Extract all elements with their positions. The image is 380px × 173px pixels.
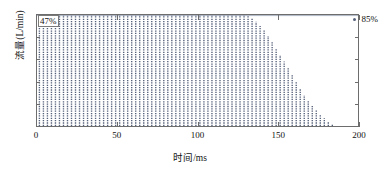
x-tick-mark xyxy=(359,15,360,20)
flow-rate-chart: 流量(L/min) 47% 85% 时间/ms 0.20.40.60.81.00… xyxy=(0,0,380,173)
x-tick-mark xyxy=(359,122,360,127)
x-tick-label: 200 xyxy=(339,131,379,140)
annotation-duty-cycle-start: 47% xyxy=(38,15,59,27)
annotation-arrow-icon xyxy=(353,18,356,21)
y-tick-mark xyxy=(355,59,359,60)
x-tick-mark xyxy=(36,15,37,20)
y-tick-mark xyxy=(36,104,40,105)
plot-area xyxy=(36,14,359,127)
y-tick-mark xyxy=(36,82,40,83)
x-tick-label: 150 xyxy=(258,131,298,140)
x-tick-mark xyxy=(117,122,118,127)
x-axis-label: 时间/ms xyxy=(0,150,380,164)
y-tick-mark xyxy=(36,37,40,38)
x-tick-mark xyxy=(36,122,37,127)
x-tick-label: 50 xyxy=(97,131,137,140)
x-tick-mark xyxy=(117,15,118,20)
pulse-series xyxy=(37,15,358,126)
annotation-duty-cycle-end: 85% xyxy=(362,14,379,24)
x-tick-label: 100 xyxy=(178,131,218,140)
y-axis-label: 流量(L/min) xyxy=(13,0,27,85)
x-tick-mark xyxy=(278,122,279,127)
y-tick-mark xyxy=(36,59,40,60)
y-tick-mark xyxy=(355,37,359,38)
y-tick-mark xyxy=(355,82,359,83)
x-tick-mark xyxy=(198,15,199,20)
y-tick-mark xyxy=(355,104,359,105)
x-tick-mark xyxy=(198,122,199,127)
x-tick-label: 0 xyxy=(16,131,56,140)
x-tick-mark xyxy=(278,15,279,20)
